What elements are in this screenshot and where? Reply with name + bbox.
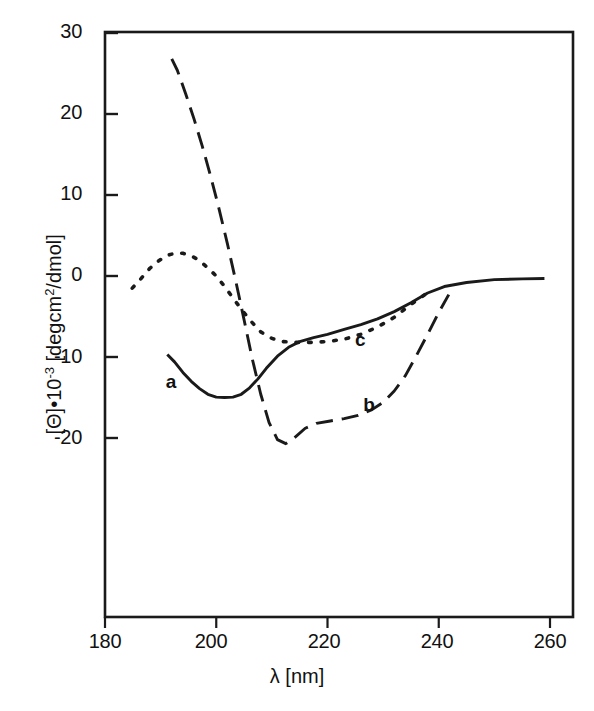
y-axis-title: [Θ]•10-3 [degcm2/dmol] <box>42 104 67 564</box>
curve-label-b: b <box>363 394 375 416</box>
tick-marks <box>105 33 550 628</box>
ytick-label-30: 30 <box>12 20 82 43</box>
y-title-prefix: [Θ]•10 <box>43 379 65 435</box>
data-curves <box>132 59 544 444</box>
curve-label-a: a <box>166 371 177 393</box>
y-title-sup2: 2 <box>42 289 57 296</box>
curve-b <box>172 59 449 444</box>
xtick-label-200: 200 <box>176 630 246 653</box>
plot-canvas <box>0 0 594 711</box>
curve-c <box>132 253 425 342</box>
x-axis-title: λ [nm] <box>0 665 594 688</box>
y-title-tail: /dmol] <box>43 234 65 288</box>
cd-spectrum-figure: 30 20 10 0 -10 -20 180 200 220 240 260 λ… <box>0 0 594 711</box>
curve-label-c: c <box>355 329 366 351</box>
xtick-label-260: 260 <box>515 630 585 653</box>
y-title-exponent: -3 <box>42 367 57 379</box>
xtick-label-220: 220 <box>289 630 359 653</box>
axes-border <box>105 32 573 617</box>
plot-frame <box>105 32 573 617</box>
y-title-rest: [degcm <box>43 296 65 367</box>
xtick-label-240: 240 <box>402 630 472 653</box>
xtick-label-180: 180 <box>70 630 140 653</box>
